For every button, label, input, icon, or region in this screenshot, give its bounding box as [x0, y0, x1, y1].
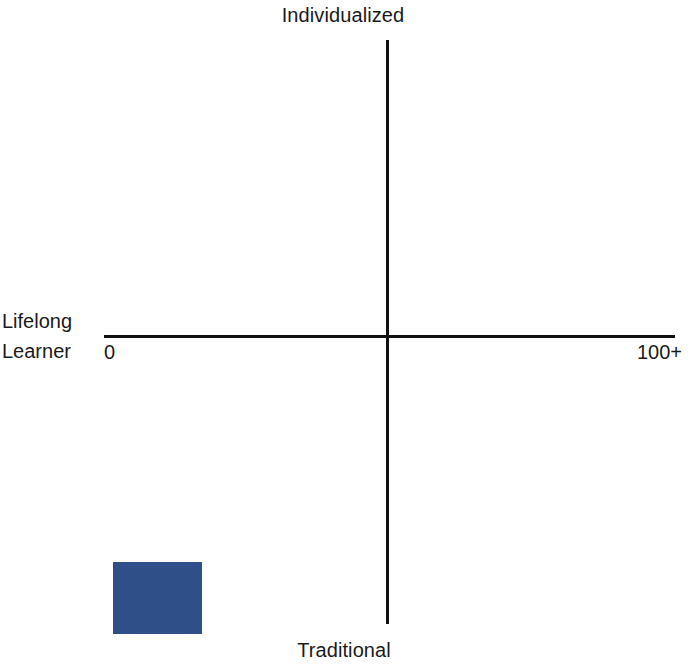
- axis-label-lifelong-learner-line1: Lifelong: [2, 306, 100, 336]
- quadrant-chart: Individualized Lifelong Learner 0 100+ T…: [0, 0, 690, 668]
- axis-label-individualized-text: Individualized: [282, 4, 405, 26]
- x-axis-tick-min: 0: [104, 341, 115, 364]
- horizontal-axis-line: [104, 335, 675, 338]
- axis-label-individualized: Individualized: [0, 4, 690, 27]
- axis-label-lifelong-learner: Lifelong Learner: [2, 306, 100, 366]
- axis-label-lifelong-learner-line2: Learner: [2, 336, 100, 366]
- axis-label-traditional: Traditional: [0, 639, 690, 662]
- vertical-axis-line: [386, 40, 389, 624]
- data-point-square: [113, 562, 202, 634]
- axis-label-traditional-text: Traditional: [297, 639, 391, 661]
- x-axis-tick-max: 100+: [637, 341, 682, 364]
